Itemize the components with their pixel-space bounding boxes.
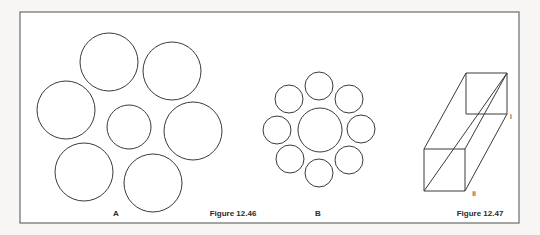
vertex-label-ii: ii [472,189,476,198]
caption-figure-12-47: Figure 12.47 [457,209,504,218]
figure-b-label: B [315,209,321,218]
caption-figure-12-46: Figure 12.46 [210,209,257,218]
figure-canvas [0,0,540,235]
figure-a-label: A [113,209,119,218]
vertex-label-i: i [510,112,512,121]
figure-plate: A Figure 12.46 B Figure 12.47 i ii [0,0,540,235]
